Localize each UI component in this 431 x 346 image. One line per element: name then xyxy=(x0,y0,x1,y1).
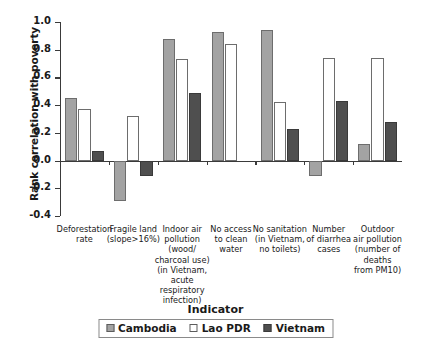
y-axis-spine xyxy=(60,22,61,216)
rank-correlation-bar-chart: Rank correlation with poverty 1.00.80.60… xyxy=(0,0,431,346)
bar-cambodia xyxy=(65,98,77,160)
y-tick: -0.2 xyxy=(55,188,60,189)
category-label-line: from PM10) xyxy=(349,265,406,275)
y-tick-label: -0.4 xyxy=(29,209,51,220)
legend-item-cambodia: Cambodia xyxy=(106,322,177,334)
bar-cambodia xyxy=(212,32,224,161)
y-tick-label: 0.0 xyxy=(33,154,51,165)
y-tick: 0.6 xyxy=(55,77,60,78)
bar-cambodia xyxy=(261,30,273,160)
x-tick xyxy=(158,161,159,165)
legend-swatch xyxy=(264,324,272,332)
x-axis-title: Indicator xyxy=(0,303,431,316)
category-label-line: charcoal use) xyxy=(154,255,211,265)
category-label-line: (in Vietnam, xyxy=(154,265,211,275)
y-tick-label: 1.0 xyxy=(33,15,51,26)
bar-lao-pdr xyxy=(371,58,383,161)
legend-swatch xyxy=(190,324,198,332)
category-label-line: air pollution xyxy=(349,234,406,244)
bar-cambodia xyxy=(163,39,175,161)
x-tick xyxy=(353,161,354,165)
legend-label: Vietnam xyxy=(276,322,325,334)
bar-lao-pdr xyxy=(176,59,188,160)
bar-lao-pdr xyxy=(323,58,335,161)
bar-vietnam xyxy=(336,101,348,161)
y-tick-label: 0.6 xyxy=(33,70,51,81)
bar-vietnam xyxy=(140,161,152,176)
bar-vietnam xyxy=(287,129,299,161)
y-tick-label: 0.4 xyxy=(33,98,51,109)
bar-vietnam xyxy=(92,151,104,161)
category-label: Outdoorair pollution(number ofdeathsfrom… xyxy=(349,224,406,275)
y-tick: 0.8 xyxy=(55,50,60,51)
bar-lao-pdr xyxy=(127,116,139,160)
y-tick: 0.0 xyxy=(55,161,60,162)
y-tick: -0.4 xyxy=(55,216,60,217)
category-label-line: Outdoor xyxy=(349,224,406,234)
legend-label: Cambodia xyxy=(118,322,177,334)
y-tick: 0.2 xyxy=(55,133,60,134)
y-tick-label: 0.8 xyxy=(33,43,51,54)
y-tick-label: -0.2 xyxy=(29,181,51,192)
legend-swatch xyxy=(106,324,114,332)
chart-legend: CambodiaLao PDRVietnam xyxy=(98,319,333,338)
bar-cambodia xyxy=(309,161,321,176)
category-label-line: acute xyxy=(154,275,211,285)
plot-area: 1.00.80.60.40.20.0-0.2-0.4 xyxy=(60,22,402,216)
category-label-line: deaths xyxy=(349,255,406,265)
x-tick xyxy=(304,161,305,165)
legend-label: Lao PDR xyxy=(202,322,251,334)
x-tick xyxy=(207,161,208,165)
zero-baseline xyxy=(60,161,402,162)
legend-item-lao-pdr: Lao PDR xyxy=(190,322,251,334)
y-tick: 1.0 xyxy=(55,22,60,23)
category-label-line: respiratory xyxy=(154,285,211,295)
bar-lao-pdr xyxy=(225,44,237,160)
bar-lao-pdr xyxy=(78,109,90,160)
x-tick xyxy=(109,161,110,165)
y-tick-label: 0.2 xyxy=(33,126,51,137)
bar-lao-pdr xyxy=(274,102,286,160)
bar-vietnam xyxy=(385,122,397,161)
x-tick xyxy=(255,161,256,165)
bar-cambodia xyxy=(114,161,126,201)
y-tick: 0.4 xyxy=(55,105,60,106)
bar-cambodia xyxy=(358,144,370,161)
category-label-line: (number of xyxy=(349,244,406,254)
bar-vietnam xyxy=(189,93,201,161)
legend-item-vietnam: Vietnam xyxy=(264,322,325,334)
